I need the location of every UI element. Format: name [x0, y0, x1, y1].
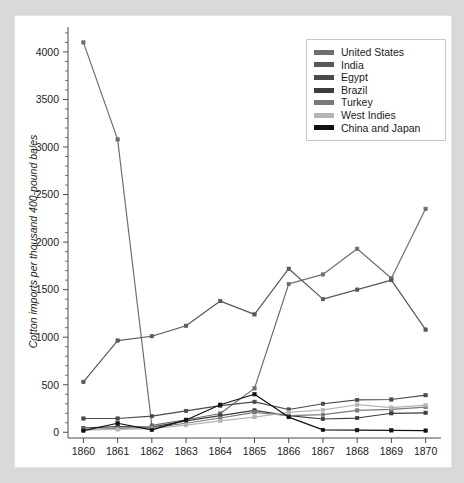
legend-item-label: India: [341, 60, 364, 71]
series-marker: [321, 428, 324, 431]
series-marker: [253, 393, 256, 396]
legend-swatch-icon: [314, 125, 334, 130]
series-marker: [424, 403, 427, 406]
series-line: [83, 395, 425, 418]
series-marker: [253, 387, 256, 390]
x-tick-label: 1869: [380, 445, 404, 457]
y-tick-label: 500: [41, 379, 59, 391]
series-marker: [287, 267, 290, 270]
legend-item: China and Japan: [314, 122, 438, 135]
series-marker: [390, 398, 393, 401]
series-marker: [424, 429, 427, 432]
legend-swatch-icon: [314, 100, 334, 105]
series-marker: [321, 402, 324, 405]
chart-figure: Cotton imports per thousand 400-pound ba…: [0, 0, 464, 483]
y-tick-label: 0: [53, 426, 59, 438]
series-marker: [321, 297, 324, 300]
series-marker: [355, 288, 358, 291]
series-marker: [390, 406, 393, 409]
legend-swatch-icon: [314, 75, 334, 80]
x-tick-label: 1866: [277, 445, 301, 457]
y-tick-label: 2000: [36, 236, 60, 248]
y-tick-label: 1500: [36, 283, 60, 295]
series-marker: [116, 138, 119, 141]
y-tick-label: 3500: [36, 93, 60, 105]
y-tick-label: 3000: [36, 141, 60, 153]
series-marker: [116, 428, 119, 431]
legend-swatch-icon: [314, 50, 334, 55]
series-marker: [287, 282, 290, 285]
series-marker: [150, 414, 153, 417]
series-marker: [287, 411, 290, 414]
series-marker: [219, 419, 222, 422]
x-tick-label: 1864: [209, 445, 233, 457]
x-tick-label: 1862: [140, 445, 164, 457]
legend-item: India: [314, 59, 438, 72]
series-marker: [184, 423, 187, 426]
series-marker: [355, 416, 358, 419]
series-marker: [253, 313, 256, 316]
series-marker: [219, 403, 222, 406]
series-marker: [82, 380, 85, 383]
series-marker: [424, 411, 427, 414]
legend-item: Egypt: [314, 71, 438, 84]
legend-item-label: China and Japan: [341, 123, 420, 134]
x-tick-label: 1870: [414, 445, 438, 457]
legend-swatch-icon: [314, 113, 334, 118]
series-marker: [116, 339, 119, 342]
series-marker: [82, 429, 85, 432]
series-marker: [150, 428, 153, 431]
legend-swatch-icon: [314, 88, 334, 93]
y-tick-label: 1000: [36, 331, 60, 343]
legend-item-label: Turkey: [341, 97, 373, 108]
x-tick-label: 1868: [345, 445, 369, 457]
series-marker: [355, 409, 358, 412]
legend-item: United States: [314, 46, 438, 59]
data-series: [82, 267, 428, 384]
legend-item: West Indies: [314, 109, 438, 122]
series-marker: [116, 422, 119, 425]
legend-item-label: Egypt: [341, 72, 368, 83]
x-tick-label: 1867: [311, 445, 335, 457]
series-marker: [390, 278, 393, 281]
series-marker: [321, 417, 324, 420]
series-marker: [355, 247, 358, 250]
x-tick-label: 1865: [243, 445, 267, 457]
series-marker: [390, 412, 393, 415]
series-marker: [424, 328, 427, 331]
series-marker: [287, 415, 290, 418]
series-marker: [253, 400, 256, 403]
series-marker: [253, 415, 256, 418]
series-marker: [82, 417, 85, 420]
series-marker: [116, 417, 119, 420]
series-marker: [253, 411, 256, 414]
y-tick-label: 4000: [36, 46, 60, 58]
series-marker: [321, 273, 324, 276]
series-marker: [184, 409, 187, 412]
series-marker: [184, 418, 187, 421]
legend-item-label: United States: [341, 47, 404, 58]
series-marker: [150, 335, 153, 338]
series-marker: [219, 299, 222, 302]
series-marker: [390, 429, 393, 432]
x-tick-label: 1861: [106, 445, 130, 457]
series-marker: [424, 394, 427, 397]
legend-item: Turkey: [314, 96, 438, 109]
y-tick-label: 2500: [36, 188, 60, 200]
series-marker: [82, 41, 85, 44]
series-marker: [424, 207, 427, 210]
series-marker: [355, 403, 358, 406]
legend-item-label: West Indies: [341, 110, 396, 121]
chart-legend: United StatesIndiaEgyptBrazilTurkeyWest …: [306, 39, 446, 141]
series-marker: [321, 408, 324, 411]
legend-item-label: Brazil: [341, 85, 367, 96]
series-marker: [321, 413, 324, 416]
series-marker: [355, 398, 358, 401]
x-tick-label: 1863: [174, 445, 198, 457]
x-tick-label: 1860: [72, 445, 96, 457]
series-marker: [355, 429, 358, 432]
legend-item: Brazil: [314, 84, 438, 97]
series-marker: [184, 324, 187, 327]
legend-swatch-icon: [314, 62, 334, 67]
